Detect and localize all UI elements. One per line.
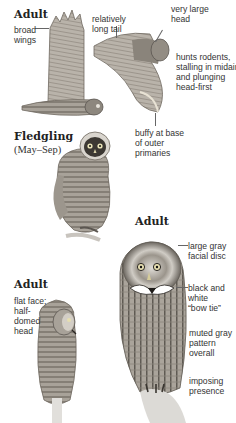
leader-bow-tie (176, 287, 188, 288)
leader-broad-wings (35, 28, 49, 29)
leader-facial-disc (178, 245, 188, 246)
label-large-head: very large head (171, 4, 209, 24)
label-facial-disc: large gray facial disc (188, 241, 226, 261)
subheading-fledgling-season: (May–Sep) (14, 144, 61, 155)
leader-buffy (155, 113, 156, 126)
owl-fledgling (53, 132, 110, 240)
label-flat-face: flat face; half- domed head (14, 296, 46, 336)
label-long-tail: relatively long tail (92, 14, 126, 34)
label-broad-wings: broad wings (14, 25, 36, 45)
owl-adult-front (120, 242, 186, 423)
label-buffy: buffy at base of outer primaries (135, 128, 184, 158)
heading-fledgling: Fledgling (14, 130, 73, 143)
heading-adult-front: Adult (135, 215, 169, 228)
label-bow-tie: black and white “bow tie” (188, 283, 225, 313)
label-muted-pattern: muted gray pattern overall (189, 328, 232, 358)
heading-adult-flight: Adult (14, 8, 48, 21)
heading-adult-side: Adult (14, 278, 48, 291)
label-imposing: imposing presence (189, 376, 224, 396)
label-hunts: hunts rodents, stalling in midair and pl… (176, 52, 236, 92)
owl-flying-wing-down (94, 33, 169, 112)
